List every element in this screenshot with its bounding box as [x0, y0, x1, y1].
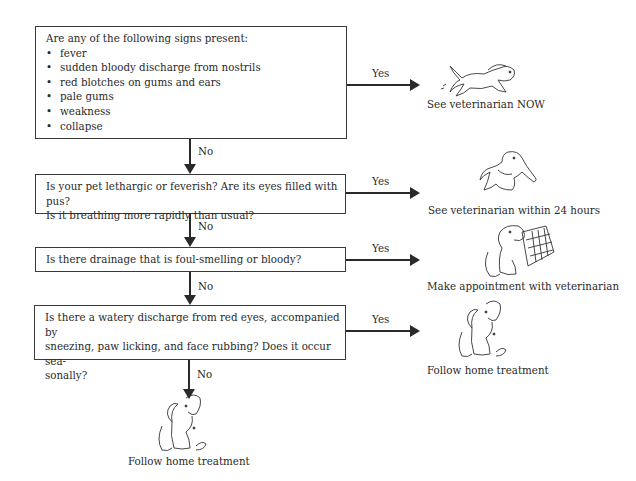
sign-item: collapse: [46, 119, 346, 134]
question-4-line-1: Is there a watery discharge from red eye…: [45, 310, 345, 339]
sitting-dog-icon: [450, 298, 516, 360]
sign-item: sudden bloody discharge from nostrils: [46, 60, 346, 75]
running-dog-icon: [440, 58, 520, 100]
yes-label-4: Yes: [372, 313, 389, 325]
question-1-intro: Are any of the following signs present:: [46, 31, 346, 46]
question-2-line-1: Is your pet lethargic or feverish? Are i…: [46, 179, 345, 208]
question-4-line-3: sonally?: [45, 368, 345, 383]
arrow-down-icon: [184, 295, 196, 305]
arrow-down-icon: [184, 237, 196, 247]
outcome-see-vet-24h: See veterinarian within 24 hours: [428, 204, 600, 216]
question-box-2: Is your pet lethargic or feverish? Are i…: [35, 174, 346, 214]
sick-dog-icon: [478, 150, 544, 192]
question-box-4: Is there a watery discharge from red eye…: [34, 305, 346, 360]
no-connector-3: [189, 272, 191, 296]
question-box-3: Is there drainage that is foul-smelling …: [35, 247, 346, 272]
arrow-right-icon: [410, 79, 420, 91]
no-connector-2: [189, 214, 191, 238]
yes-connector-2: [346, 192, 412, 194]
yes-label-3: Yes: [372, 242, 389, 254]
yes-label-2: Yes: [372, 175, 389, 187]
no-label-2: No: [198, 220, 213, 232]
dog-calendar-icon: [482, 222, 558, 280]
question-2-line-2: Is it breathing more rapidly than usual?: [46, 208, 345, 223]
arrow-right-icon: [410, 325, 420, 337]
sitting-dog-icon: [150, 392, 216, 454]
signs-list: fever sudden bloody discharge from nostr…: [46, 46, 346, 134]
yes-connector-3: [346, 259, 412, 261]
yes-connector-1: [347, 84, 412, 86]
question-3-line-1: Is there drainage that is foul-smelling …: [46, 252, 345, 267]
sign-item: pale gums: [46, 89, 346, 104]
outcome-home-treatment-no: Follow home treatment: [128, 455, 250, 467]
arrow-down-icon: [184, 164, 196, 174]
sign-item: weakness: [46, 104, 346, 119]
question-4-line-2: sneezing, paw licking, and face rubbing?…: [45, 339, 345, 368]
sign-item: red blotches on gums and ears: [46, 75, 346, 90]
no-label-4: No: [197, 368, 212, 380]
no-label-3: No: [198, 280, 213, 292]
no-connector-4: [188, 360, 190, 390]
no-label-1: No: [198, 145, 213, 157]
yes-connector-4: [346, 330, 412, 332]
no-connector-1: [189, 139, 191, 165]
question-box-1: Are any of the following signs present: …: [35, 26, 347, 139]
arrow-right-icon: [410, 254, 420, 266]
outcome-make-appointment: Make appointment with veterinarian: [427, 280, 619, 292]
outcome-see-vet-now: See veterinarian NOW: [427, 98, 545, 110]
outcome-home-treatment-yes: Follow home treatment: [427, 364, 549, 376]
yes-label-1: Yes: [372, 67, 389, 79]
sign-item: fever: [46, 46, 346, 61]
arrow-right-icon: [410, 187, 420, 199]
